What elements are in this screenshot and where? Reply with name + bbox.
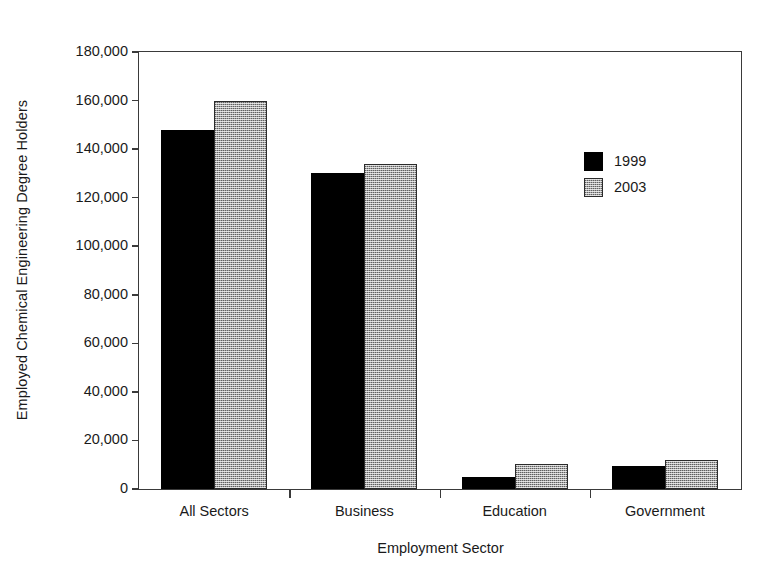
y-tick-mark: [132, 294, 139, 296]
y-tick-mark: [132, 100, 139, 102]
x-tick-label-government: Government: [580, 503, 750, 519]
legend-item-1999: 1999: [584, 148, 646, 174]
y-tick-mark: [132, 148, 139, 150]
x-tick-mark: [289, 490, 291, 498]
y-tick-label: 140,000: [40, 141, 128, 155]
y-tick-mark: [132, 343, 139, 345]
legend-swatch-1999: [584, 152, 603, 171]
legend-item-2003: 2003: [584, 174, 646, 200]
x-axis-title: Employment Sector: [138, 540, 743, 556]
bar-education-1999: [462, 477, 515, 489]
bar-all-sectors-1999: [161, 130, 214, 489]
y-tick-mark: [132, 51, 139, 53]
bar-business-2003: [364, 164, 417, 489]
y-tick-label: 40,000: [40, 384, 128, 398]
legend-label-1999: 1999: [614, 153, 646, 169]
legend-label-2003: 2003: [614, 179, 646, 195]
y-tick-label: 120,000: [40, 190, 128, 204]
bar-chart: Employed Chemical Engineering Degree Hol…: [0, 0, 772, 579]
bar-business-1999: [311, 173, 364, 489]
y-tick-mark: [132, 391, 139, 393]
bar-all-sectors-2003: [214, 101, 267, 489]
bar-government-1999: [612, 466, 665, 489]
bar-education-2003: [515, 464, 568, 489]
x-tick-label-all-sectors: All Sectors: [129, 503, 299, 519]
x-tick-mark: [440, 490, 442, 498]
x-tick-mark: [590, 490, 592, 498]
bar-government-2003: [665, 460, 718, 489]
y-tick-mark: [132, 245, 139, 247]
y-tick-label: 160,000: [40, 93, 128, 107]
y-tick-label: 0: [40, 481, 128, 495]
x-tick-label-education: Education: [430, 503, 600, 519]
y-tick-label: 180,000: [40, 44, 128, 58]
y-tick-mark: [132, 197, 139, 199]
y-tick-mark: [132, 488, 139, 490]
y-tick-label: 100,000: [40, 238, 128, 252]
bars-layer: [139, 52, 740, 489]
y-tick-mark: [132, 440, 139, 442]
y-tick-label: 20,000: [40, 432, 128, 446]
chart-legend: 19992003: [584, 148, 646, 200]
legend-swatch-2003: [584, 178, 603, 197]
x-tick-label-business: Business: [279, 503, 449, 519]
y-tick-label: 60,000: [40, 335, 128, 349]
y-tick-label: 80,000: [40, 287, 128, 301]
